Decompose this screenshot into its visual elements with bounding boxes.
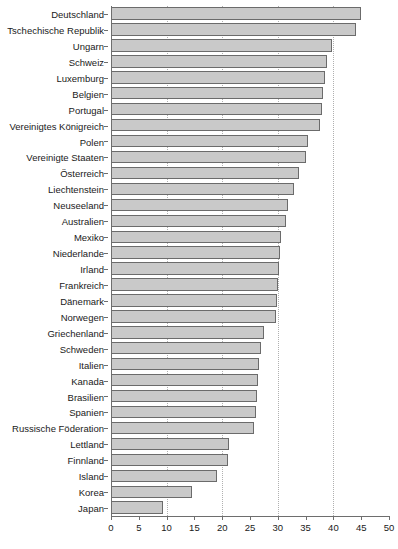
x-axis-ticks: 05101520253035404550 [111,516,389,546]
y-axis-tick [104,365,108,366]
category-label: Portugal [69,102,104,120]
y-axis-tick [104,476,108,477]
bar-row [111,118,389,136]
bar-row [111,420,389,438]
bar [111,486,192,498]
category-label: Polen [80,134,104,152]
category-label: Schweiz [69,54,104,72]
bar [111,119,320,131]
bar-row [111,452,389,470]
bar-row [111,102,389,120]
y-axis-tick [104,396,108,397]
x-axis-tick [111,516,112,520]
y-axis-tick [104,508,108,509]
bar-row [111,500,389,518]
y-axis-tick [104,94,108,95]
category-label: Dänemark [60,293,104,311]
y-axis-tick [104,333,108,334]
y-axis-tick [104,126,108,127]
bar-row [111,309,389,327]
bar [111,167,299,179]
bar [111,294,277,306]
y-axis-tick [104,46,108,47]
category-label: Luxemburg [56,70,104,88]
x-axis-tick [167,516,168,520]
y-axis-tick [104,317,108,318]
bar [111,358,259,370]
bar-row [111,357,389,375]
bar [111,183,294,195]
y-axis-tick [104,157,108,158]
category-label: Österreich [60,165,104,183]
bar [111,215,286,227]
bar-row [111,389,389,407]
x-axis-tick-label: 45 [356,522,367,533]
x-axis-tick [222,516,223,520]
bar-row [111,54,389,72]
bar-row [111,197,389,215]
bar [111,7,361,19]
bar [111,151,306,163]
bar [111,422,254,434]
bar-row [111,325,389,343]
y-axis-tick [104,221,108,222]
category-label: Lettland [70,436,104,454]
bar-rows [111,6,389,516]
x-axis-tick-label: 40 [328,522,339,533]
bar [111,501,163,513]
category-label: Ungarn [73,38,104,56]
y-axis-tick [104,78,108,79]
bar [111,246,280,258]
bar [111,87,323,99]
bar [111,55,327,67]
y-axis-tick [104,237,108,238]
y-axis-tick [104,460,108,461]
category-label: Deutschland [51,6,104,24]
bar [111,39,332,51]
bar-row [111,261,389,279]
y-axis-tick [104,301,108,302]
y-axis-tick [104,428,108,429]
plot-area [111,6,389,516]
x-axis-tick-label: 0 [108,522,113,533]
category-label: Russische Föderation [12,420,104,438]
bar-row [111,134,389,152]
category-label: Vereinigtes Königreich [9,118,104,136]
bar-row [111,229,389,247]
category-label: Brasilien [68,389,104,407]
bar [111,374,258,386]
y-axis-tick [104,14,108,15]
category-label: Irland [80,261,104,279]
category-label: Neuseeland [53,197,104,215]
category-label: Belgien [72,86,104,104]
x-axis-tick-label: 20 [217,522,228,533]
category-label: Kanada [71,373,104,391]
category-label: Australien [62,213,104,231]
x-axis-tick [306,516,307,520]
y-axis-tick [104,189,108,190]
category-label: Mexiko [74,229,104,247]
category-label: Schweden [60,341,104,359]
bar-row [111,165,389,183]
y-axis-tick [104,269,108,270]
x-axis-tick [250,516,251,520]
bar [111,438,229,450]
x-axis-tick [389,516,390,520]
category-label: Frankreich [59,277,104,295]
bar-row [111,277,389,295]
bar-row [111,436,389,454]
y-axis-tick [104,205,108,206]
bar-row [111,484,389,502]
y-axis-tick [104,141,108,142]
bar-row [111,70,389,88]
bar [111,454,228,466]
bar [111,342,261,354]
bar-row [111,293,389,311]
bar [111,231,281,243]
x-axis-tick-label: 5 [136,522,141,533]
y-axis-line [111,6,112,517]
y-axis-tick [104,412,108,413]
bar [111,23,356,35]
category-label: Niederlande [53,245,104,263]
x-axis-tick-label: 50 [384,522,395,533]
